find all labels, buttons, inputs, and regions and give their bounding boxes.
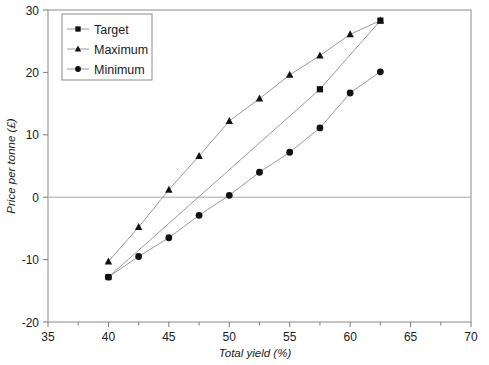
triangle-marker: [316, 51, 323, 58]
circle-marker: [377, 68, 384, 75]
circle-marker: [286, 149, 293, 156]
chart-legend: TargetMaximumMinimum: [62, 14, 152, 80]
circle-marker: [165, 234, 172, 241]
circle-marker: [317, 125, 324, 132]
y-axis-title: Price per tonne (£): [5, 118, 17, 213]
x-tick-label: 70: [464, 330, 478, 344]
x-axis-title: Total yield (%): [219, 347, 292, 359]
x-axis-ticks: [48, 322, 471, 327]
y-tick-label: 0: [32, 191, 39, 205]
x-tick-label: 45: [162, 330, 176, 344]
triangle-marker: [256, 95, 263, 102]
legend-label: Target: [94, 23, 129, 37]
y-axis-tick-labels: -20-100102030: [22, 4, 40, 330]
circle-marker: [196, 212, 203, 219]
chart-container: 3540455055606570 -20-100102030 TargetMax…: [0, 0, 489, 365]
square-marker: [317, 86, 323, 92]
series-line: [108, 72, 380, 277]
x-tick-label: 35: [41, 330, 55, 344]
circle-marker: [75, 66, 81, 72]
x-tick-label: 55: [283, 330, 297, 344]
y-tick-label: 20: [26, 66, 40, 80]
y-tick-label: -20: [22, 316, 40, 330]
x-tick-label: 50: [223, 330, 237, 344]
x-axis-tick-labels: 3540455055606570: [41, 330, 478, 344]
circle-marker: [135, 253, 142, 260]
y-tick-label: 30: [26, 4, 40, 18]
circle-marker: [226, 192, 233, 199]
triangle-marker: [226, 117, 233, 124]
x-tick-label: 60: [343, 330, 357, 344]
triangle-marker: [286, 71, 293, 78]
circle-marker: [105, 274, 112, 281]
legend-label: Minimum: [94, 63, 145, 77]
legend-label: Maximum: [94, 43, 148, 57]
circle-marker: [256, 169, 263, 176]
triangle-marker: [346, 30, 353, 37]
y-tick-label: -10: [22, 253, 40, 267]
line-chart: 3540455055606570 -20-100102030 TargetMax…: [0, 0, 489, 365]
x-tick-label: 65: [404, 330, 418, 344]
series-minimum: [105, 68, 384, 280]
x-tick-label: 40: [102, 330, 116, 344]
circle-marker: [347, 90, 354, 97]
square-marker: [75, 26, 80, 31]
y-axis-ticks: [43, 10, 48, 322]
y-tick-label: 10: [26, 128, 40, 142]
